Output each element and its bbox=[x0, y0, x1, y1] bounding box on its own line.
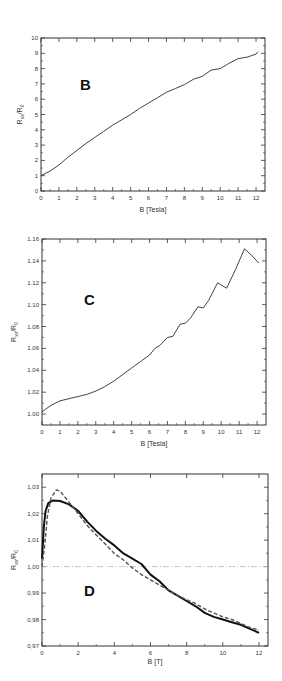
x-tick-label: 3 bbox=[94, 429, 98, 435]
x-tick-label: 7 bbox=[166, 429, 170, 435]
y-tick-label: 2 bbox=[35, 157, 39, 163]
chart-c-svg: 01234567891011121.001.021.041.061.081.10… bbox=[0, 220, 282, 450]
x-tick-label: 10 bbox=[218, 429, 225, 435]
x-axis-title-d: B [T] bbox=[148, 658, 163, 666]
y-tick-label: 3 bbox=[35, 142, 39, 148]
x-tick-label: 5 bbox=[129, 195, 133, 201]
x-tick-label: 1 bbox=[58, 429, 62, 435]
y-tick-label: 1.06 bbox=[27, 345, 39, 351]
x-tick-label: 4 bbox=[111, 195, 115, 201]
y-axis-b: 012345678910 bbox=[31, 35, 265, 194]
y-tick-label: 1 bbox=[35, 173, 39, 179]
y-tick-label: 1,02 bbox=[27, 511, 39, 517]
y-axis-title-d: Rxx/R0 bbox=[10, 550, 19, 570]
y-tick-label: 1.04 bbox=[27, 367, 39, 373]
y-tick-label: 8 bbox=[35, 66, 39, 72]
y-axis-title-c: Rxx/R0 bbox=[10, 322, 19, 342]
x-tick-label: 12 bbox=[253, 195, 260, 201]
y-axis-c: 1.001.021.041.061.081.101.121.141.16 bbox=[27, 236, 266, 417]
panel-label-b: B bbox=[80, 76, 91, 93]
x-tick-label: 6 bbox=[148, 429, 152, 435]
x-axis-d: 024681012 bbox=[40, 474, 263, 656]
plot-frame-b bbox=[41, 38, 265, 191]
x-axis-title-b: B [Tesla] bbox=[140, 206, 167, 214]
y-tick-label: 6 bbox=[35, 96, 39, 102]
series-d-fit bbox=[42, 490, 259, 630]
x-tick-label: 3 bbox=[93, 195, 97, 201]
x-tick-label: 8 bbox=[184, 429, 188, 435]
x-tick-label: 12 bbox=[254, 429, 261, 435]
y-tick-label: 0,97 bbox=[27, 643, 39, 649]
x-tick-label: 9 bbox=[202, 429, 206, 435]
x-tick-label: 0 bbox=[39, 195, 43, 201]
x-tick-label: 4 bbox=[112, 429, 116, 435]
x-tick-label: 4 bbox=[113, 650, 117, 656]
x-tick-label: 6 bbox=[147, 195, 151, 201]
y-tick-label: 1,00 bbox=[27, 564, 39, 570]
x-tick-label: 7 bbox=[165, 195, 169, 201]
series-b-r-xx-r-0 bbox=[41, 52, 258, 176]
panel-label-d: D bbox=[84, 582, 95, 599]
x-tick-label: 2 bbox=[76, 650, 80, 656]
x-tick-label: 12 bbox=[256, 650, 263, 656]
x-tick-label: 10 bbox=[217, 195, 224, 201]
y-tick-label: 1.16 bbox=[27, 236, 39, 242]
x-tick-label: 8 bbox=[185, 650, 189, 656]
y-tick-label: 5 bbox=[35, 112, 39, 118]
y-tick-label: 1.10 bbox=[27, 302, 39, 308]
y-tick-label: 1.02 bbox=[27, 389, 39, 395]
chart-b: 0123456789101112012345678910B [Tesla]Rxx… bbox=[0, 0, 282, 220]
x-tick-label: 10 bbox=[219, 650, 226, 656]
chart-b-svg: 0123456789101112012345678910B [Tesla]Rxx… bbox=[0, 0, 282, 220]
x-axis-title-c: B [Tesla] bbox=[141, 440, 168, 448]
y-axis-title-b: Rxx/R0 bbox=[16, 104, 25, 124]
y-tick-label: 1.14 bbox=[27, 258, 39, 264]
series-c-r-xx-r-0 bbox=[42, 249, 259, 412]
y-tick-label: 4 bbox=[35, 127, 39, 133]
y-tick-label: 1.00 bbox=[27, 411, 39, 417]
x-tick-label: 0 bbox=[40, 429, 44, 435]
y-tick-label: 1.08 bbox=[27, 324, 39, 330]
x-tick-label: 8 bbox=[183, 195, 187, 201]
x-tick-label: 9 bbox=[201, 195, 205, 201]
y-tick-label: 10 bbox=[31, 35, 38, 41]
x-tick-label: 5 bbox=[130, 429, 134, 435]
chart-d-svg: 0246810120,970,980,991,001,011,021,03B [… bbox=[0, 450, 282, 681]
x-axis-c: 0123456789101112 bbox=[40, 239, 261, 435]
y-tick-label: 0,98 bbox=[27, 617, 39, 623]
y-tick-label: 7 bbox=[35, 81, 39, 87]
chart-d: 0246810120,970,980,991,001,011,021,03B [… bbox=[0, 450, 282, 681]
x-tick-label: 0 bbox=[40, 650, 44, 656]
x-tick-label: 6 bbox=[149, 650, 153, 656]
y-tick-label: 1,01 bbox=[27, 537, 39, 543]
y-tick-label: 1.12 bbox=[27, 280, 39, 286]
x-tick-label: 1 bbox=[57, 195, 61, 201]
chart-c: 01234567891011121.001.021.041.061.081.10… bbox=[0, 220, 282, 450]
x-tick-label: 2 bbox=[76, 429, 80, 435]
y-tick-label: 0,99 bbox=[27, 590, 39, 596]
x-tick-label: 2 bbox=[75, 195, 79, 201]
y-tick-label: 0 bbox=[35, 188, 39, 194]
x-tick-label: 11 bbox=[236, 429, 243, 435]
y-tick-label: 1,03 bbox=[27, 484, 39, 490]
panel-label-c: C bbox=[84, 291, 95, 308]
x-axis-b: 0123456789101112 bbox=[39, 38, 260, 201]
x-tick-label: 11 bbox=[235, 195, 242, 201]
y-tick-label: 9 bbox=[35, 50, 39, 56]
